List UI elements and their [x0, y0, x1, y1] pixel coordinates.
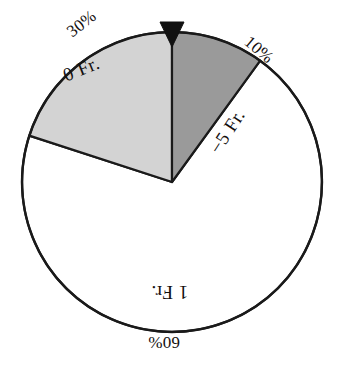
prize-wheel-figure: 0 Fr. −5 Fr. 1 Fr. 30% 10% 60%	[0, 0, 338, 371]
pie-chart-svg	[0, 0, 338, 371]
slice-label-1fr: 1 Fr.	[151, 281, 188, 303]
percent-label-60: 60%	[148, 332, 180, 352]
